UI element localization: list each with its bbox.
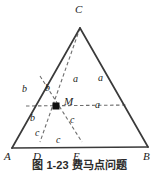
- geometry-figure: C A B D E M a a a b b b c c c 图 1-23 费马点…: [0, 0, 159, 172]
- segment-label-c-2: c: [70, 115, 74, 125]
- figure-caption: 图 1-23 费马点问题: [0, 159, 159, 172]
- segment-label-c-3: c: [56, 135, 60, 145]
- segment-label-a-3: a: [95, 100, 100, 110]
- segment-label-b-3: b: [30, 113, 35, 123]
- point-label-m: M: [64, 96, 73, 107]
- triangle-edge-ab: [12, 147, 148, 148]
- segment-label-a-1: a: [73, 74, 78, 84]
- segment-label-c-1: c: [35, 128, 39, 138]
- segment-label-a-2: a: [98, 73, 103, 83]
- segment-label-b-2: b: [45, 83, 50, 93]
- point-marker-m: [53, 103, 60, 110]
- triangle-edge-cb: [80, 28, 148, 147]
- dashed-horizontal-through-m: [26, 105, 128, 106]
- segment-label-b-1: b: [22, 84, 27, 94]
- vertex-label-c: C: [75, 4, 82, 15]
